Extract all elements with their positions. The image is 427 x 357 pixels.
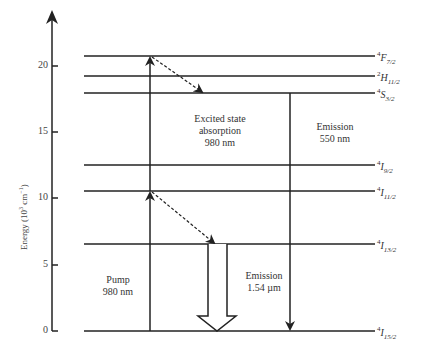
level-label-4I11-2: 4I11/2	[377, 185, 396, 201]
level-label-4I13-2: 4I13/2	[377, 238, 396, 254]
tick-20: 20	[28, 59, 48, 70]
emission-1540-label: Emission1.54 µm	[234, 270, 294, 294]
level-label-4I15-2: 4I15/2	[377, 325, 396, 341]
pump-label: Pump980 nm	[88, 274, 148, 298]
emission-550-label: Emission550 nm	[300, 121, 370, 145]
y-axis-label: Energy (103 cm−1)	[18, 184, 29, 250]
tick-10: 10	[28, 191, 48, 202]
level-label-2H11-2: 2H11/2	[377, 70, 400, 86]
tick-15: 15	[28, 125, 48, 136]
tick-0: 0	[28, 324, 48, 335]
level-label-4S3-2: 4S3/2	[377, 87, 394, 103]
level-label-4F7-2: 4F7/2	[377, 50, 396, 66]
esa-label: Excited stateabsorption980 nm	[170, 113, 270, 149]
nonrad-arrow-lower	[152, 192, 214, 243]
nonrad-arrow-upper	[152, 57, 202, 92]
emission-1540-arrow	[198, 244, 236, 331]
tick-5: 5	[28, 258, 48, 269]
level-label-4I9-2: 4I9/2	[377, 159, 393, 175]
energy-diagram	[0, 0, 427, 357]
